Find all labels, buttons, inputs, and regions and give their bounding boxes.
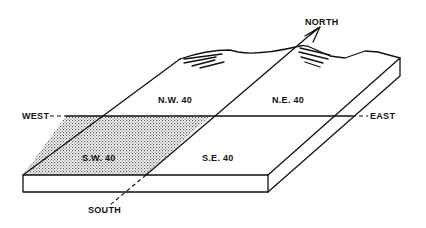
label-south: SOUTH <box>88 205 121 215</box>
block-front-face <box>23 175 268 192</box>
label-sw-quarter: S.W. 40 <box>82 153 116 163</box>
land-block-diagram: NORTH WEST EAST SOUTH N.W. 40 N.E. 40 S.… <box>0 0 426 228</box>
block-right-face <box>268 58 400 192</box>
label-ne-quarter: N.E. 40 <box>272 95 304 105</box>
label-north: NORTH <box>305 17 339 27</box>
sw-quadrant-shading <box>23 116 210 175</box>
label-se-quarter: S.E. 40 <box>202 153 234 163</box>
label-east: EAST <box>370 111 395 121</box>
hill-hatching-right <box>299 48 330 67</box>
south-dashed-line <box>110 175 146 205</box>
label-west: WEST <box>22 111 49 121</box>
north-arrow-icon <box>305 27 320 42</box>
label-nw-quarter: N.W. 40 <box>158 95 192 105</box>
